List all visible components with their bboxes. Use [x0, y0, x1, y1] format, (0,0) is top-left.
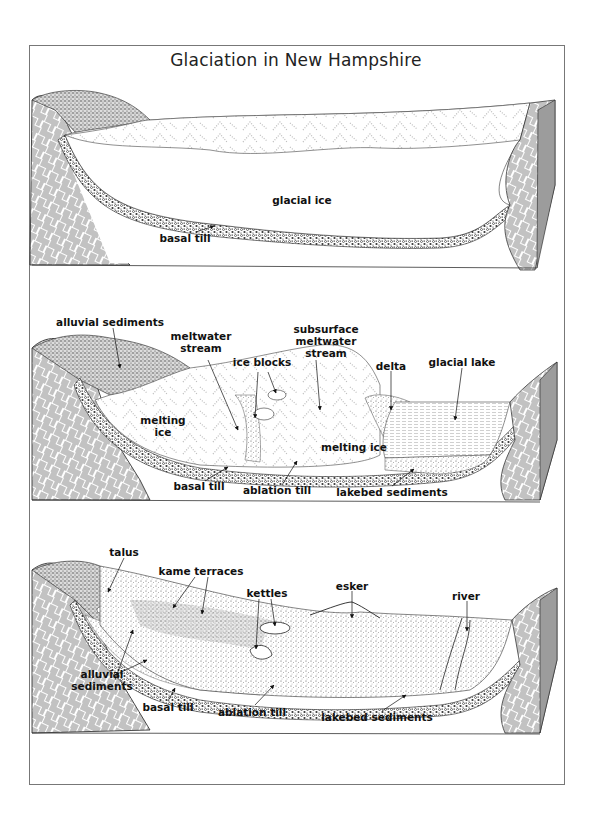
label-delta: delta — [376, 360, 406, 372]
label-alluvial-sediments: alluvial sediments — [56, 316, 164, 328]
label-ablation-till-3: ablation till — [218, 706, 286, 718]
label-basal-till-2: basal till — [173, 480, 224, 492]
label-basal-till-3: basal till — [142, 701, 193, 713]
label-glacial-lake: glacial lake — [429, 356, 496, 368]
label-lakebed-sediments-3: lakebed sediments — [321, 711, 433, 723]
label-ablation-till-2: ablation till — [243, 484, 311, 496]
panel-1-glacial-ice — [30, 90, 555, 270]
label-lakebed-sediments-2: lakebed sediments — [336, 486, 448, 498]
label-glacial-ice: glacial ice — [272, 194, 331, 206]
illustration-canvas — [0, 0, 592, 825]
label-melting-ice-left-line1: melting — [140, 414, 185, 426]
label-melting-ice-right: melting ice — [321, 441, 387, 453]
label-ice-blocks: ice blocks — [233, 356, 291, 368]
label-alluvial-line1: alluvial — [81, 668, 124, 680]
label-subsurface-line2: meltwater — [296, 335, 357, 347]
label-melting-ice-left-line2: ice — [155, 426, 172, 438]
label-subsurface-line1: subsurface — [293, 323, 358, 335]
label-talus: talus — [109, 546, 138, 558]
label-kettles: kettles — [247, 587, 288, 599]
label-basal-till: basal till — [159, 232, 210, 244]
label-meltwater-stream-line1: meltwater — [171, 330, 232, 342]
label-alluvial-line2: sediments — [71, 680, 132, 692]
panel-2-melting-glacier — [32, 328, 557, 502]
label-river: river — [452, 590, 480, 602]
label-kame-terraces: kame terraces — [159, 565, 244, 577]
label-meltwater-stream-line2: stream — [180, 342, 222, 354]
label-subsurface-line3: stream — [305, 347, 347, 359]
panel-3-post-glacial-landscape — [32, 558, 557, 734]
label-esker: esker — [336, 580, 368, 592]
